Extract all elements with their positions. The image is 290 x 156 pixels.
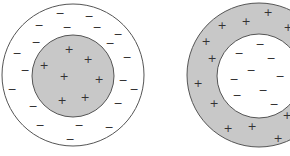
minus-charge-icon: − (28, 100, 37, 113)
minus-charge-icon: − (246, 64, 255, 77)
plus-charge-icon: + (201, 35, 210, 48)
plus-charge-icon: + (207, 52, 216, 65)
minus-charge-icon: − (104, 121, 113, 134)
minus-charge-icon: − (255, 38, 264, 51)
plus-charge-icon: + (59, 70, 68, 83)
plus-charge-icon: + (83, 53, 92, 66)
minus-charge-icon: − (113, 97, 122, 110)
charge-distribution-figure: +++++++−−−−−−−−−−−−−−−−−−−−++++++++++++−… (0, 0, 290, 156)
plus-charge-icon: + (217, 19, 226, 32)
minus-charge-icon: − (122, 51, 131, 64)
minus-charge-icon: − (266, 52, 275, 65)
plus-charge-icon: + (209, 97, 218, 110)
minus-charge-icon: − (232, 89, 241, 102)
plus-charge-icon: + (39, 59, 48, 72)
minus-charge-icon: − (34, 19, 43, 32)
minus-charge-icon: − (258, 84, 267, 97)
plus-charge-icon: + (80, 91, 89, 104)
minus-charge-icon: − (229, 73, 238, 86)
minus-charge-icon: − (12, 47, 21, 60)
plus-charge-icon: + (64, 43, 73, 56)
plus-charge-icon: + (193, 77, 202, 90)
minus-charge-icon: − (7, 83, 16, 96)
plus-charge-icon: + (273, 132, 282, 145)
minus-charge-icon: − (62, 21, 71, 34)
plus-charge-icon: + (223, 122, 232, 135)
minus-charge-icon: − (74, 119, 83, 132)
plus-charge-icon: + (94, 73, 103, 86)
minus-charge-icon: − (35, 119, 44, 132)
minus-charge-icon: − (118, 74, 127, 87)
minus-charge-icon: − (269, 98, 278, 111)
solid-charged-sphere-with-shell-diagram: +++++++−−−−−−−−−−−−−−−−−−−− (2, 4, 144, 146)
minus-charge-icon: − (113, 28, 122, 41)
minus-charge-icon: − (105, 37, 114, 50)
minus-charge-icon: − (55, 7, 64, 20)
plus-charge-icon: + (282, 109, 290, 122)
minus-charge-icon: − (65, 133, 74, 146)
minus-charge-icon: − (129, 83, 138, 96)
minus-charge-icon: − (234, 47, 243, 60)
minus-charge-icon: − (92, 21, 101, 34)
plus-charge-icon: + (247, 120, 256, 133)
minus-charge-icon: − (31, 36, 40, 49)
plus-charge-icon: + (263, 6, 272, 19)
plus-charge-icon: + (241, 15, 250, 28)
minus-charge-icon: − (275, 70, 284, 83)
plus-charge-icon: + (57, 94, 66, 107)
hollow-charged-shell-diagram: ++++++++++++−−−−−−−−− (187, 3, 290, 147)
plus-charge-icon: + (283, 21, 290, 34)
minus-charge-icon: − (20, 64, 29, 77)
